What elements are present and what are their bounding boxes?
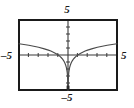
window-label-ymax: 5 — [0, 4, 134, 15]
window-label-xmin: –5 — [1, 50, 12, 61]
window-label-ymin: –5 — [0, 92, 134, 103]
window-label-xmax: 5 — [121, 50, 127, 61]
curve-asymptote-cusp — [67, 86, 70, 90]
graph-figure: 5 –5 –5 5 — [0, 0, 134, 108]
